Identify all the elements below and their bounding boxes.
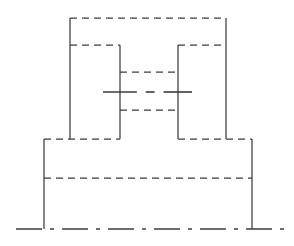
drawing-svg (0, 0, 294, 246)
engineering-drawing-canvas (0, 0, 294, 246)
